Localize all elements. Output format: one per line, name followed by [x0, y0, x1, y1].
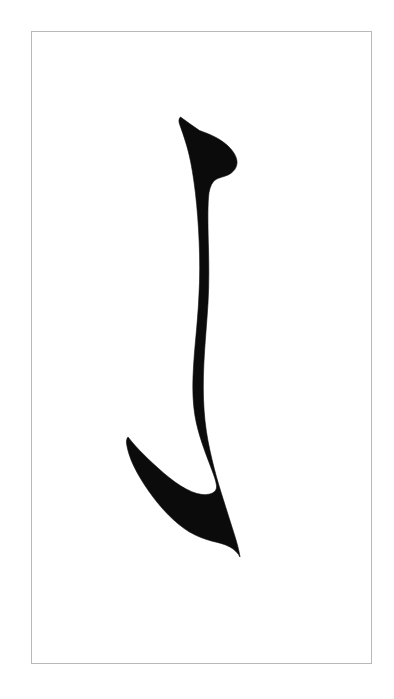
brush-stroke-group — [126, 117, 240, 557]
brush-stroke-path — [126, 117, 240, 557]
calligraphy-stroke-canvas — [0, 0, 394, 699]
screenshot-root: A single black brush stroke: sharp upwar… — [0, 0, 394, 699]
